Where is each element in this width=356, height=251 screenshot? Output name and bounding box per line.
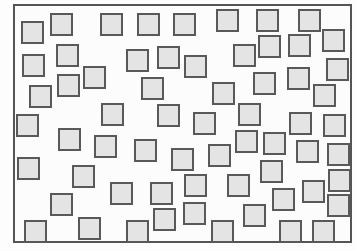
square-shape xyxy=(78,217,101,240)
square-shape xyxy=(110,182,133,205)
square-shape xyxy=(83,66,106,89)
square-shape xyxy=(157,46,180,69)
square-shape xyxy=(56,44,79,67)
square-shape xyxy=(263,132,286,155)
square-shape xyxy=(50,193,73,216)
square-shape xyxy=(272,188,295,211)
square-shape xyxy=(101,103,124,126)
square-shape xyxy=(327,194,350,217)
square-shape xyxy=(313,84,336,107)
square-shape xyxy=(302,180,325,203)
square-shape xyxy=(183,202,206,225)
square-shape xyxy=(193,112,216,135)
square-shape xyxy=(233,44,256,67)
square-shape xyxy=(323,114,346,137)
square-shape xyxy=(24,220,47,243)
square-shape xyxy=(238,103,261,126)
square-shape xyxy=(326,58,349,81)
square-shape xyxy=(50,13,73,36)
square-shape xyxy=(58,128,81,151)
square-shape xyxy=(150,182,173,205)
square-shape xyxy=(173,13,196,36)
square-shape xyxy=(29,85,52,108)
square-shape xyxy=(17,157,40,180)
square-shape xyxy=(253,72,276,95)
square-shape xyxy=(141,77,164,100)
square-shape xyxy=(72,165,95,188)
square-shape xyxy=(184,55,207,78)
square-shape xyxy=(322,29,345,52)
square-shape xyxy=(256,9,279,32)
square-shape xyxy=(327,143,350,166)
square-shape xyxy=(227,174,250,197)
square-shape xyxy=(243,204,266,227)
square-shape xyxy=(287,67,310,90)
square-shape xyxy=(211,220,234,243)
square-shape xyxy=(289,112,312,135)
square-shape xyxy=(235,130,258,153)
square-shape xyxy=(16,114,39,137)
square-shape xyxy=(208,144,231,167)
square-shape xyxy=(312,220,335,243)
square-shape xyxy=(100,13,123,36)
square-shape xyxy=(328,169,351,192)
square-shape xyxy=(126,220,149,243)
square-shape xyxy=(134,139,157,162)
square-shape xyxy=(171,148,194,171)
square-shape xyxy=(157,104,180,127)
square-shape xyxy=(57,74,80,97)
square-shape xyxy=(126,49,149,72)
square-shape xyxy=(260,160,283,183)
square-shape xyxy=(212,82,235,105)
square-shape xyxy=(258,35,281,58)
square-shape xyxy=(22,54,45,77)
square-shape xyxy=(298,9,321,32)
square-shape xyxy=(153,208,176,231)
square-shape xyxy=(137,13,160,36)
square-shape xyxy=(21,21,44,44)
square-shape xyxy=(279,220,302,243)
square-shape xyxy=(296,140,319,163)
square-shape xyxy=(184,174,207,197)
square-shape xyxy=(216,9,239,32)
square-shape xyxy=(94,135,117,158)
square-shape xyxy=(288,34,311,57)
